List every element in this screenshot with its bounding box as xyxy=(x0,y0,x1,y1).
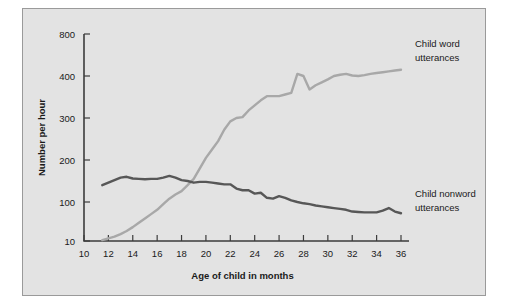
figure-container: 1010020030040080010121416182022242628303… xyxy=(0,0,508,307)
y-tick-label: 10 xyxy=(64,236,75,247)
x-tick-label: 14 xyxy=(127,248,138,259)
chart-series-group xyxy=(102,70,401,240)
series-line-child-nonword-utterances xyxy=(102,176,401,213)
x-tick-label: 34 xyxy=(371,248,382,259)
y-axis-title: Number per hour xyxy=(36,99,47,176)
x-tick-label: 32 xyxy=(347,248,358,259)
series-label-child-nonword-utterances: Child nonword xyxy=(415,188,476,199)
x-tick-label: 12 xyxy=(103,248,114,259)
x-axis-title: Age of child in months xyxy=(191,270,293,281)
axis-lines xyxy=(84,34,409,241)
x-tick-label: 30 xyxy=(323,248,334,259)
series-line-child-word-utterances xyxy=(102,70,401,240)
series-label-child-word-utterances: Child word xyxy=(415,38,460,49)
x-tick-label: 36 xyxy=(396,248,407,259)
chart-frame: 1010020030040080010121416182022242628303… xyxy=(22,8,486,296)
chart-svg: 1010020030040080010121416182022242628303… xyxy=(23,9,485,295)
chart-series-labels: Child wordutterancesChild nonwordutteran… xyxy=(415,38,476,213)
x-tick-label: 22 xyxy=(225,248,236,259)
y-tick-label: 100 xyxy=(59,197,75,208)
y-tick-label: 200 xyxy=(59,155,75,166)
y-tick-label: 300 xyxy=(59,113,75,124)
x-tick-label: 18 xyxy=(176,248,187,259)
chart-tick-labels: 1010020030040080010121416182022242628303… xyxy=(59,29,406,260)
x-tick-label: 20 xyxy=(201,248,212,259)
x-tick-label: 26 xyxy=(274,248,285,259)
x-tick-label: 16 xyxy=(152,248,163,259)
chart-axes xyxy=(84,34,409,241)
x-tick-label: 28 xyxy=(298,248,309,259)
x-tick-label: 24 xyxy=(249,248,260,259)
series-label-child-word-utterances: utterances xyxy=(415,52,460,63)
y-tick-label: 800 xyxy=(59,29,75,40)
y-tick-label: 400 xyxy=(59,71,75,82)
series-label-child-nonword-utterances: utterances xyxy=(415,202,460,213)
x-tick-label: 10 xyxy=(79,248,90,259)
